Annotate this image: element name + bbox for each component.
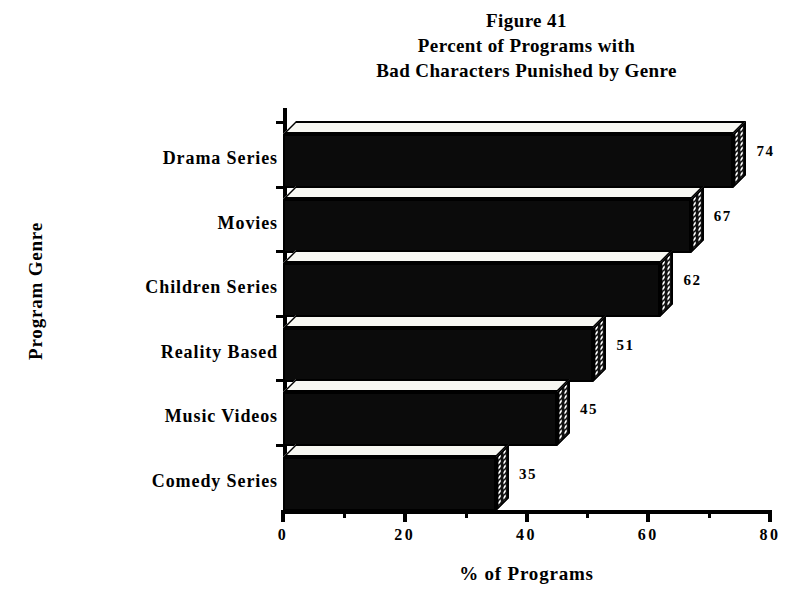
title-line-1: Figure 41 [283,8,770,33]
y-axis-label-3: Children Series [0,277,278,298]
title-line-3: Bad Characters Punished by Genre [283,58,770,83]
bar-front-face [283,199,691,253]
y-axis-label-1: Drama Series [0,148,278,169]
x-axis-tick-label: 20 [365,526,445,544]
bar-top-face [283,250,673,263]
chart-figure: Figure 41 Percent of Programs with Bad C… [0,0,806,605]
bar-top-face [283,315,606,328]
bar-top-face [283,444,509,457]
x-axis-tick-minor [708,510,711,518]
bar-side-face [660,250,673,317]
x-axis-title: % of Programs [283,563,770,585]
y-axis-label-5: Music Videos [0,406,278,427]
y-axis-label-4: Reality Based [0,342,278,363]
bar-front-face [283,328,593,382]
bar-side-face [557,379,570,446]
y-axis-label-2: Movies [0,213,278,234]
bar-value-label: 74 [756,143,774,160]
x-axis-tick-major [525,510,529,522]
x-axis-tick-minor [465,510,468,518]
x-axis-tick-major [403,510,407,522]
bar-value-label: 35 [519,466,537,483]
bar-front-face [283,134,733,188]
chart-title: Figure 41 Percent of Programs with Bad C… [283,8,770,83]
bar-value-label: 51 [616,337,634,354]
bar-side-face [733,121,746,188]
bar-value-label: 45 [580,401,598,418]
plot-area: 746762514535 [283,108,770,514]
bar-top-face [283,186,704,199]
x-axis-tick-minor [586,510,589,518]
bar-top-face [283,379,570,392]
bar-top-face [283,121,746,134]
x-axis-tick-label: 60 [608,526,688,544]
y-axis-tick [276,121,285,124]
bar-value-label: 62 [683,272,701,289]
x-axis-tick-minor [343,510,346,518]
bar-front-face [283,263,660,317]
x-axis-tick-major [281,510,285,522]
bar-side-face [593,315,606,382]
x-axis-tick-major [646,510,650,522]
bar-side-face [496,444,509,511]
bar-side-face [691,186,704,253]
x-axis-tick-major [768,510,772,522]
x-axis-tick-label: 80 [730,526,806,544]
x-axis-tick-label: 0 [243,526,323,544]
x-axis-tick-label: 40 [487,526,567,544]
bar-front-face [283,457,496,511]
bar-front-face [283,392,557,446]
bar-value-label: 67 [714,208,732,225]
title-line-2: Percent of Programs with [283,33,770,58]
y-axis-label-6: Comedy Series [0,471,278,492]
